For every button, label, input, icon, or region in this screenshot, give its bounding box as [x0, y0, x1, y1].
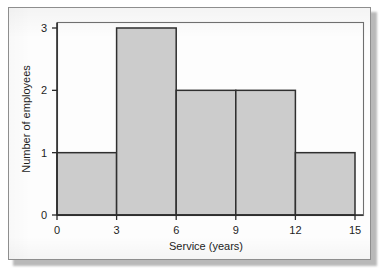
y-tick-label-0: 0 — [41, 209, 47, 221]
bar-bin-6-9 — [176, 90, 236, 215]
x-axis-title: Service (years) — [169, 240, 243, 252]
x-tick-label-6: 6 — [173, 224, 179, 236]
y-tick-label-1: 1 — [41, 147, 47, 159]
x-tick-label-0: 0 — [54, 224, 60, 236]
y-tick-label-3: 3 — [41, 22, 47, 34]
x-tick-label-9: 9 — [233, 224, 239, 236]
bar-bin-0-3 — [57, 153, 117, 215]
bar-bin-12-15 — [295, 153, 355, 215]
x-tick-label-3: 3 — [114, 224, 120, 236]
bar-bin-9-12 — [236, 90, 296, 215]
x-tick-label-12: 12 — [289, 224, 301, 236]
x-tick-label-15: 15 — [349, 224, 361, 236]
y-axis-title: Number of employees — [20, 65, 32, 173]
y-tick-label-2: 2 — [41, 84, 47, 96]
histogram-chart: 0 3 6 9 12 15 0 1 2 3 Service (years) Nu… — [0, 0, 388, 280]
bar-bin-3-6 — [117, 28, 177, 215]
histogram-svg: 0 3 6 9 12 15 0 1 2 3 Service (years) Nu… — [0, 0, 388, 280]
